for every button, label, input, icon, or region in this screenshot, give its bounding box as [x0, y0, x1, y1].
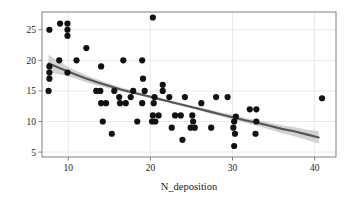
x-tick-label: 10 — [64, 163, 74, 173]
chart-figure: 10203040 510152025 N_deposition Species_… — [0, 0, 348, 198]
scatter-plot-svg: 10203040 510152025 N_deposition Species_… — [0, 0, 348, 198]
x-axis-label: N_deposition — [161, 181, 218, 192]
y-tick-label: 15 — [27, 86, 37, 96]
x-tick-label: 40 — [310, 163, 320, 173]
x-tick-label: 30 — [228, 163, 238, 173]
y-tick-label: 5 — [31, 148, 36, 158]
x-tick-label: 20 — [146, 163, 156, 173]
y-tick-label: 10 — [27, 117, 37, 127]
y-tick-label: 20 — [27, 56, 37, 66]
y-tick-label: 25 — [27, 25, 37, 35]
